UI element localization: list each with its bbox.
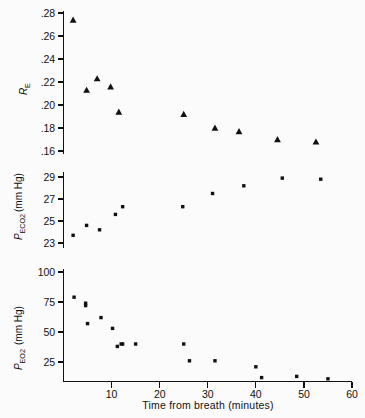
data-point	[254, 365, 257, 368]
data-point	[295, 375, 298, 378]
data-point	[85, 224, 88, 227]
data-point	[134, 342, 137, 345]
y-tick-label: 25	[44, 356, 56, 368]
data-point	[180, 111, 187, 117]
data-point	[213, 359, 216, 362]
data-point	[116, 345, 119, 348]
data-point	[182, 342, 185, 345]
y-tick-label: .20	[41, 99, 56, 111]
data-point	[107, 83, 114, 89]
bottom-panel-data-points	[72, 296, 329, 381]
top-panel-y-ticks	[58, 13, 64, 151]
x-tick-label: 10	[106, 388, 118, 400]
data-point	[115, 109, 122, 115]
middle-panel-y-ticks	[58, 177, 64, 243]
y-tick-label: .22	[41, 76, 56, 88]
data-point	[83, 87, 90, 93]
data-point	[99, 316, 102, 319]
x-tick-label: 60	[346, 388, 358, 400]
data-point	[70, 17, 77, 23]
y-axis-title-unit: (mm Hg)	[13, 306, 24, 345]
data-point	[84, 304, 87, 307]
data-point	[274, 136, 281, 142]
data-point	[313, 138, 320, 144]
panel-bottom-PEO2: 100 75 50 25 P EO2 (mm Hg) 102030405060 …	[13, 266, 358, 411]
y-tick-label: .18	[41, 122, 56, 134]
y-tick-label: 75	[44, 296, 56, 308]
data-point	[212, 125, 219, 131]
data-point	[236, 128, 243, 134]
y-tick-label: 50	[44, 326, 56, 338]
x-tick-label: 50	[298, 388, 310, 400]
bottom-panel-y-ticks	[58, 272, 64, 362]
three-panel-scatter-figure: .28 .26 .24 .22 .20 .18 .16 R E	[0, 0, 365, 418]
bottom-panel-y-tick-labels: 100 75 50 25	[38, 266, 55, 368]
figure-container: .28 .26 .24 .22 .20 .18 .16 R E	[0, 0, 365, 418]
data-point	[94, 75, 101, 81]
data-point	[242, 184, 245, 187]
y-tick-label: 25	[44, 215, 56, 227]
data-point	[71, 234, 74, 237]
y-tick-label: 100	[38, 266, 55, 278]
data-point	[114, 213, 117, 216]
bottom-panel-y-axis-title: P EO2 (mm Hg)	[13, 306, 27, 370]
x-axis-title: Time from breath (minutes)	[142, 399, 273, 411]
y-tick-label: .16	[41, 145, 56, 157]
middle-panel-data-points	[71, 176, 322, 237]
data-point	[121, 342, 124, 345]
data-point	[319, 178, 322, 181]
data-point	[211, 192, 214, 195]
panel-middle-PECO2: 29 27 25 23 P ECO2 (mm Hg)	[13, 171, 322, 249]
y-tick-label: .24	[41, 53, 56, 65]
y-tick-label: 27	[44, 193, 56, 205]
x-axis-ticks	[112, 382, 352, 388]
data-point	[86, 322, 89, 325]
y-tick-label: .28	[41, 7, 56, 19]
data-point	[72, 296, 75, 299]
top-panel-y-tick-labels: .28 .26 .24 .22 .20 .18 .16	[41, 7, 56, 157]
data-point	[188, 359, 191, 362]
y-tick-label: 29	[44, 171, 56, 183]
data-point	[98, 228, 101, 231]
top-panel-y-axis-title: R E	[18, 83, 32, 95]
data-point	[281, 176, 284, 179]
panel-top-RE: .28 .26 .24 .22 .20 .18 .16 R E	[18, 7, 319, 157]
y-tick-label: .26	[41, 30, 56, 42]
y-axis-title-unit: (mm Hg)	[13, 173, 24, 212]
middle-panel-y-axis-title: P ECO2 (mm Hg)	[13, 173, 27, 240]
y-axis-title-subscript: ECO2	[18, 214, 27, 234]
y-tick-label: 23	[44, 237, 56, 249]
data-point	[260, 376, 263, 379]
data-point	[111, 327, 114, 330]
y-axis-title-subscript: EO2	[18, 349, 27, 363]
data-point	[121, 205, 124, 208]
middle-panel-y-tick-labels: 29 27 25 23	[44, 171, 56, 249]
data-point	[326, 377, 329, 380]
y-axis-title-subscript: E	[23, 83, 32, 88]
top-panel-data-points	[70, 17, 320, 145]
data-point	[181, 205, 184, 208]
